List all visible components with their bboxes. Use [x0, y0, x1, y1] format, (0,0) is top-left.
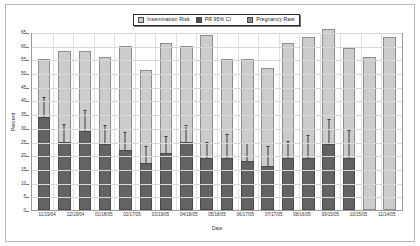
gridline-h-25 — [32, 143, 402, 144]
x-axis-tick-11-19-04: 11/19/04 — [33, 213, 61, 225]
y-axis-tickmark-40 — [26, 101, 29, 102]
bar-insemination-risk — [363, 57, 376, 210]
y-axis-tickmark-5 — [26, 197, 29, 198]
bar-pregnancy-rate — [99, 144, 112, 210]
gridline-h-15 — [32, 170, 402, 171]
y-axis-tickmark-30 — [26, 129, 29, 130]
legend-swatch-icon-pregnancy-rate — [247, 17, 253, 23]
y-axis-tickmark-0 — [26, 211, 29, 212]
x-axis-tick-labels: 11/19/0412/19/0401/18/0502/17/0503/19/05… — [31, 213, 403, 225]
legend-item-pregnancy-rate: Pregnancy Rate — [247, 17, 295, 23]
bar-pregnancy-rate — [58, 142, 71, 210]
error-bar-cap — [63, 124, 66, 125]
bar-pregnancy-rate — [119, 150, 132, 210]
error-bar-pr-95-ci — [166, 137, 167, 152]
bar-pregnancy-rate — [261, 166, 274, 210]
x-axis-tick-10-15-05: 10/15/05 — [344, 213, 372, 225]
bar-pregnancy-rate — [160, 153, 173, 211]
bar-pregnancy-rate — [241, 161, 254, 210]
x-axis-tick-04-18-05: 04/18/05 — [175, 213, 203, 225]
gridline-h-65 — [32, 33, 402, 34]
y-axis-tickmark-15 — [26, 170, 29, 171]
x-axis-tick-01-18-05: 01/18/05 — [90, 213, 118, 225]
legend-label-insemination-risk: Insemination Risk — [147, 17, 190, 22]
plot-area — [31, 33, 403, 211]
plot-wrapper — [31, 33, 403, 211]
legend-swatch-icon-insemination-risk — [138, 17, 144, 23]
x-axis-title: Date — [31, 225, 403, 231]
x-axis-tick-05-18-05: 05/18/05 — [203, 213, 231, 225]
x-axis-tick-03-19-05: 03/19/05 — [146, 213, 174, 225]
legend-label-pr-ci: PR 95% CI — [205, 17, 232, 22]
gridline-h-40 — [32, 101, 402, 102]
x-axis-tick-02-17-05: 02/17/05 — [118, 213, 146, 225]
error-bar-cap — [307, 135, 310, 136]
y-axis-tickmark-60 — [26, 47, 29, 48]
legend-swatch-icon-pr-ci — [196, 17, 202, 23]
error-bar-pr-95-ci — [349, 131, 350, 158]
y-axis-tick-labels: 05101520253035404550556065 — [0, 33, 29, 211]
error-bar-cap — [287, 141, 290, 142]
error-bar-cap — [327, 119, 330, 120]
bar-pregnancy-rate — [322, 144, 335, 210]
gridline-h-10 — [32, 184, 402, 185]
x-axis-tick-11-14-05: 11/14/05 — [373, 213, 401, 225]
gridline-h-45 — [32, 88, 402, 89]
error-bar-pr-95-ci — [308, 136, 309, 158]
x-axis-tick-06-17-05: 06/17/05 — [231, 213, 259, 225]
y-axis-tickmark-45 — [26, 88, 29, 89]
error-bar-cap — [165, 136, 168, 137]
y-axis-tickmark-50 — [26, 74, 29, 75]
gridline-h-60 — [32, 47, 402, 48]
error-bar-cap — [144, 146, 147, 147]
legend-label-pregnancy-rate: Pregnancy Rate — [256, 17, 295, 22]
bar-pregnancy-rate — [180, 142, 193, 210]
gridline-h-20 — [32, 156, 402, 157]
gridline-h-55 — [32, 60, 402, 61]
y-axis-tickmark-65 — [26, 33, 29, 34]
y-axis-tickmark-10 — [26, 184, 29, 185]
gridline-h-5 — [32, 197, 402, 198]
chart-page: Insemination Risk PR 95% CI Pregnancy Ra… — [0, 0, 420, 246]
bar-pregnancy-rate — [38, 117, 51, 210]
error-bar-pr-95-ci — [328, 120, 329, 145]
chart-legend: Insemination Risk PR 95% CI Pregnancy Ra… — [133, 14, 300, 26]
legend-item-insemination-risk: Insemination Risk — [138, 17, 190, 23]
x-axis-tick-08-16-05: 08/16/05 — [288, 213, 316, 225]
error-bar-cap — [83, 110, 86, 111]
error-bar-cap — [104, 125, 107, 126]
x-axis-tick-07-17-05: 07/17/05 — [260, 213, 288, 225]
error-bar-cap — [266, 146, 269, 147]
x-axis-tick-09-15-05: 09/15/05 — [316, 213, 344, 225]
error-bar-cap — [226, 134, 229, 135]
gridline-h-50 — [32, 74, 402, 75]
error-bar-cap — [185, 125, 188, 126]
gridline-h-35 — [32, 115, 402, 116]
y-axis-tickmark-35 — [26, 115, 29, 116]
y-axis-tickmark-25 — [26, 143, 29, 144]
x-axis-tick-12-19-04: 12/19/04 — [61, 213, 89, 225]
error-bar-pr-95-ci — [247, 144, 248, 160]
y-axis-tickmark-55 — [26, 60, 29, 61]
error-bar-pr-95-ci — [227, 135, 228, 158]
gridline-h-30 — [32, 129, 402, 130]
y-axis-tickmark-20 — [26, 156, 29, 157]
error-bar-cap — [124, 132, 127, 133]
error-bar-cap — [43, 97, 46, 98]
error-bar-pr-95-ci — [64, 125, 65, 141]
legend-item-pr-ci: PR 95% CI — [196, 17, 232, 23]
